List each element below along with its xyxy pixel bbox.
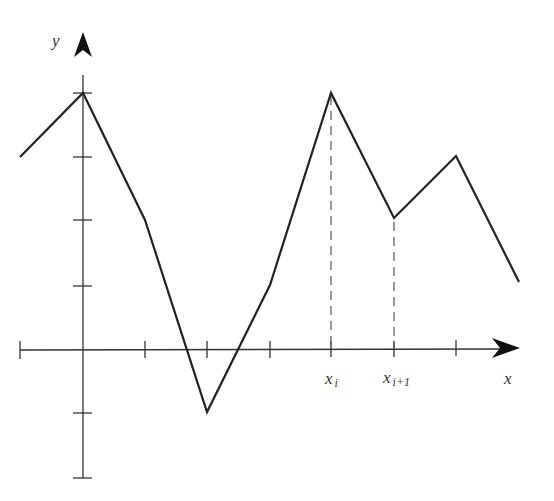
tick-label-xi-plus-1: xi+1	[382, 368, 410, 389]
x-axis-label: x	[503, 369, 512, 388]
x-axis	[20, 340, 505, 359]
y-axis-label: y	[50, 31, 60, 50]
y-axis-arrow-icon	[74, 32, 92, 57]
dashed-guides	[331, 96, 394, 348]
tick-label-xi: xi	[324, 369, 338, 390]
y-axis	[73, 75, 92, 478]
piecewise-linear-curve	[20, 93, 519, 412]
function-graph: y x xi xi+1	[0, 0, 554, 501]
x-axis-arrow-icon	[492, 338, 520, 358]
